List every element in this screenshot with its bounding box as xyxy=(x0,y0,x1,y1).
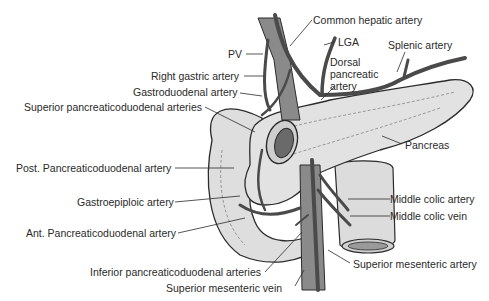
label-right-gastric-artery: Right gastric artery xyxy=(151,70,239,82)
label-common-hepatic-artery: Common hepatic artery xyxy=(313,14,422,26)
label-dorsal-pancreatic-artery-3: artery xyxy=(330,80,357,92)
label-superior-mesenteric-artery: Superior mesenteric artery xyxy=(353,258,477,270)
label-inferior-pancreaticoduodenal-arteries: Inferior pancreaticoduodenal arteries xyxy=(90,266,261,278)
label-pv: PV xyxy=(228,48,242,60)
label-ant-pancreaticoduodenal-artery: Ant. Pancreaticoduodenal artery xyxy=(26,227,176,239)
label-post-pancreaticoduodenal-artery: Post. Pancreaticoduodenal artery xyxy=(16,162,171,174)
label-gastroduodenal-artery: Gastroduodenal artery xyxy=(133,86,237,98)
label-dorsal-pancreatic-artery-2: pancreatic xyxy=(330,68,378,80)
label-dorsal-pancreatic-artery-1: Dorsal xyxy=(330,56,360,68)
label-splenic-artery: Splenic artery xyxy=(388,39,452,51)
label-middle-colic-artery: Middle colic artery xyxy=(390,193,475,205)
label-gastroepiploic-artery: Gastroepiploic artery xyxy=(77,196,174,208)
pancreas-blood-supply-diagram: Common hepatic artery PV LGA Splenic art… xyxy=(0,0,489,301)
label-middle-colic-vein: Middle colic vein xyxy=(390,210,467,222)
label-superior-mesenteric-vein: Superior mesenteric vein xyxy=(166,282,282,294)
label-superior-pancreaticoduodenal-arteries: Superior pancreaticoduodenal arteries xyxy=(24,101,202,113)
label-lga: LGA xyxy=(338,36,359,48)
label-pancreas: Pancreas xyxy=(405,139,449,151)
